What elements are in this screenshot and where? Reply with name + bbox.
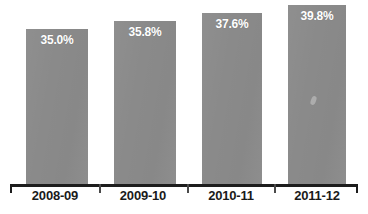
bar-2009-10[interactable]: 35.8% <box>114 21 176 184</box>
bar-value-label: 37.6% <box>202 17 262 31</box>
category-axis-labels: 2008-09 2009-10 2010-11 2011-12 <box>0 188 368 214</box>
bar-2010-11[interactable]: 37.6% <box>202 13 262 184</box>
category-label-2011-12: 2011-12 <box>276 188 358 203</box>
bar-value-label: 39.8% <box>288 9 346 23</box>
bar-value-label: 35.8% <box>114 25 176 39</box>
bar-group-0: 35.0% <box>26 0 88 184</box>
x-axis-line <box>10 184 358 187</box>
bar-group-2: 37.6% <box>202 0 262 184</box>
bar-2011-12[interactable]: 39.8% <box>288 5 346 184</box>
bar-value-label: 35.0% <box>26 33 88 47</box>
scan-artifact <box>310 95 318 105</box>
bar-chart: 35.0% 35.8% 37.6% 39.8% 2008-09 2009-10 … <box>0 0 368 214</box>
category-label-2008-09: 2008-09 <box>14 188 96 203</box>
plot-area: 35.0% 35.8% 37.6% 39.8% <box>0 0 368 184</box>
category-label-2010-11: 2010-11 <box>190 188 272 203</box>
bar-group-3: 39.8% <box>288 0 346 184</box>
category-label-2009-10: 2009-10 <box>102 188 184 203</box>
bar-group-1: 35.8% <box>114 0 176 184</box>
bar-2008-09[interactable]: 35.0% <box>26 29 88 184</box>
